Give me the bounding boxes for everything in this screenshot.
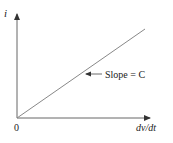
x-axis-label: dv/dt [136,122,156,133]
slope-annotation: Slope = C [105,69,145,80]
diagram-canvas: i 0 dv/dt Slope = C [0,0,173,143]
y-axis-label: i [4,7,7,19]
origin-label: 0 [14,122,19,133]
